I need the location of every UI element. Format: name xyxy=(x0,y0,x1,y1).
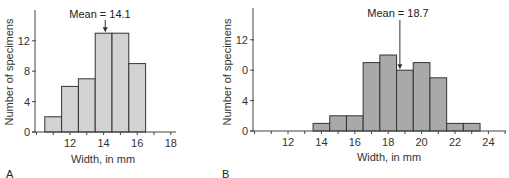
panel-label-b: B xyxy=(222,168,229,178)
histogram-figure: 12141618 04812 Mean = 14.1 Width, in mm … xyxy=(0,0,509,178)
x-tick-label: 16 xyxy=(349,136,361,148)
histogram-bar xyxy=(413,63,430,131)
histogram-b-mean-label: Mean = 18.7 xyxy=(367,7,428,19)
histogram-bar xyxy=(313,123,330,131)
histogram-b-mean-arrow xyxy=(397,20,402,69)
histogram-b: 12141618202224 04012 Mean = 18.7 Width, … xyxy=(221,7,506,178)
histogram-a-mean-arrow xyxy=(103,20,108,32)
histogram-a-x-ticks: 12141618 xyxy=(36,132,177,149)
histogram-a-y-ticks: 04812 xyxy=(18,35,36,138)
y-tick-label: 12 xyxy=(18,35,30,47)
histogram-bar xyxy=(380,55,397,131)
x-tick-label: 12 xyxy=(64,137,76,149)
x-tick-label: 14 xyxy=(97,137,109,149)
histogram-bar xyxy=(95,33,112,132)
histogram-a-x-axis-title: Width, in mm xyxy=(71,153,135,165)
histogram-bar xyxy=(463,123,480,131)
histogram-bar xyxy=(112,33,129,132)
y-tick-label: 8 xyxy=(24,65,30,77)
histogram-bar xyxy=(430,78,447,131)
histogram-bar xyxy=(397,70,414,131)
y-tick-label: 0 xyxy=(242,64,248,76)
x-tick-label: 16 xyxy=(131,137,143,149)
y-tick-label: 0 xyxy=(242,125,248,137)
histogram-b-x-axis-title: Width, in mm xyxy=(357,151,421,163)
y-tick-label: 12 xyxy=(236,34,248,46)
histogram-b-y-ticks: 04012 xyxy=(236,34,254,137)
x-tick-label: 24 xyxy=(482,136,494,148)
y-tick-label: 4 xyxy=(24,96,30,108)
histogram-bar xyxy=(447,123,464,131)
histogram-b-x-ticks: 12141618202224 xyxy=(255,131,506,148)
histogram-a: 12141618 04812 Mean = 14.1 Width, in mm … xyxy=(3,8,177,178)
x-tick-label: 18 xyxy=(382,136,394,148)
x-tick-label: 14 xyxy=(315,136,327,148)
histogram-a-mean-label: Mean = 14.1 xyxy=(69,8,130,20)
histogram-bar xyxy=(363,63,380,131)
histogram-b-bars xyxy=(313,55,480,131)
histogram-bar xyxy=(45,117,62,132)
histogram-a-y-axis-title: Number of specimens xyxy=(3,18,15,125)
histogram-b-y-axis-title: Number of specimens xyxy=(221,18,233,125)
x-tick-label: 12 xyxy=(282,136,294,148)
x-tick-label: 22 xyxy=(449,136,461,148)
histogram-bar xyxy=(129,64,146,132)
x-tick-label: 20 xyxy=(415,136,427,148)
panel-label-a: A xyxy=(6,168,14,178)
histogram-bar xyxy=(346,116,363,131)
histogram-a-bars xyxy=(45,33,146,132)
histogram-bar xyxy=(78,79,95,132)
x-tick-label: 18 xyxy=(165,137,177,149)
histogram-bar xyxy=(330,116,347,131)
y-tick-label: 0 xyxy=(24,126,30,138)
y-tick-label: 4 xyxy=(242,95,248,107)
histogram-bar xyxy=(62,86,79,132)
